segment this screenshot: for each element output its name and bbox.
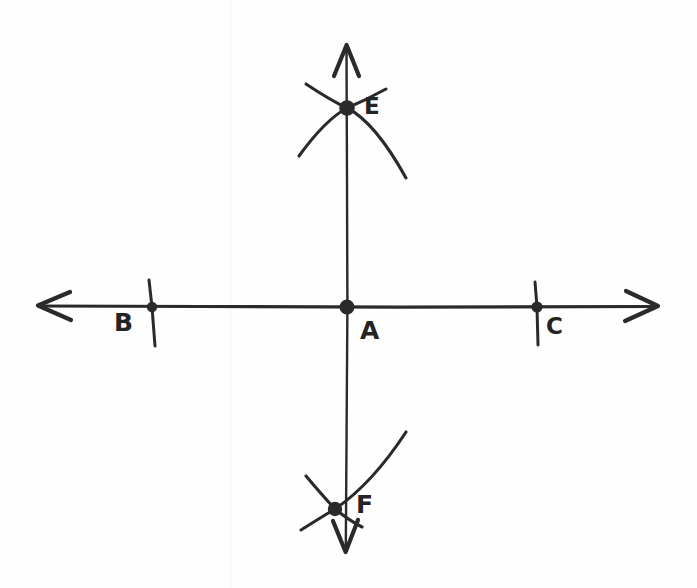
point-f-label: F <box>356 492 373 517</box>
point-c-dot <box>531 301 542 312</box>
point-f-dot <box>328 502 342 516</box>
construction-figure <box>0 0 697 588</box>
point-a-label: A <box>360 318 379 343</box>
tick-c-mark <box>535 282 538 345</box>
arc-lower-right-stroke <box>301 432 406 530</box>
point-b-label: B <box>114 310 133 335</box>
point-c-label: C <box>546 315 563 338</box>
diagram-canvas: A B C E F <box>0 0 697 588</box>
point-a-dot <box>340 300 355 315</box>
vertical-axis-line <box>346 50 348 548</box>
point-e-label: E <box>364 95 380 118</box>
point-e-dot <box>339 100 355 116</box>
point-b-dot <box>147 302 157 312</box>
tick-b-mark <box>149 280 155 346</box>
